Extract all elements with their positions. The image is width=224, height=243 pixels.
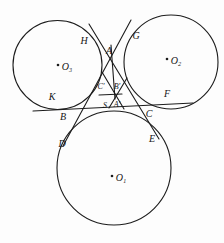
center-dot-O3 — [57, 64, 60, 67]
label-H: H — [80, 36, 87, 46]
label-K: K — [49, 92, 56, 102]
label-D: D — [58, 139, 65, 149]
label-C-prime: C′ — [97, 83, 104, 91]
label-O2: O₂ — [171, 56, 182, 66]
label-A-prime: A′ — [114, 101, 121, 109]
circle-O1 — [57, 111, 171, 225]
center-dot-O1 — [111, 175, 114, 178]
diagram-canvas — [0, 0, 224, 243]
label-O1: O₁ — [116, 173, 127, 183]
label-O3: O₃ — [62, 62, 73, 72]
center-dot-O2 — [166, 58, 169, 61]
label-A: A — [106, 46, 112, 56]
label-S: S — [103, 102, 107, 110]
geometry-figure: H G A K F B C D E C′ B′ S A′ O₃ O₂ O₁ — [0, 0, 224, 243]
segment-CprimeBprime — [99, 94, 122, 95]
label-B: B — [60, 112, 66, 122]
label-C: C — [146, 109, 153, 119]
label-G: G — [132, 31, 139, 41]
label-F: F — [164, 89, 170, 99]
label-E: E — [149, 134, 155, 144]
label-B-prime: B′ — [114, 83, 121, 91]
